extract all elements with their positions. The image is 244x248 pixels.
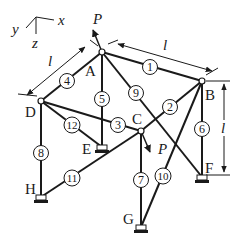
- member-label-11: 11: [64, 170, 80, 186]
- support-e: [95, 145, 109, 153]
- member-label-5: 5: [95, 92, 110, 107]
- x-axis-line: [36, 17, 54, 20]
- y-axis-line: [26, 17, 36, 28]
- svg-text:4: 4: [64, 74, 70, 88]
- member-label-12: 12: [64, 117, 80, 133]
- coordinate-axes: x y z: [10, 12, 65, 51]
- svg-text:10: 10: [158, 170, 170, 182]
- svg-text:2: 2: [167, 100, 173, 114]
- support-f: [195, 175, 209, 183]
- svg-text:1: 1: [147, 60, 153, 74]
- dim-ab-label: l: [163, 37, 167, 53]
- node-label-g: G: [123, 211, 134, 227]
- node-label-c: C: [132, 111, 142, 127]
- member-label-1: 1: [143, 60, 158, 75]
- node-label-a: A: [85, 63, 96, 79]
- load-label-a: P: [92, 11, 102, 27]
- y-axis-label: y: [10, 21, 19, 37]
- node-label-h: H: [25, 181, 36, 197]
- member-label-9: 9: [129, 86, 144, 101]
- member-label-4: 4: [60, 74, 75, 89]
- dim-ad-label: l: [48, 53, 52, 69]
- support-h: [34, 195, 48, 203]
- svg-text:3: 3: [115, 118, 121, 132]
- svg-text:12: 12: [67, 119, 78, 131]
- support-g: [134, 225, 148, 233]
- member-label-10: 10: [155, 168, 171, 184]
- svg-text:6: 6: [199, 122, 205, 136]
- member-label-8: 8: [34, 146, 49, 161]
- node-label-b: B: [205, 87, 215, 103]
- node-label-e: E: [82, 141, 91, 157]
- member-label-7: 7: [134, 173, 149, 188]
- node-label-d: D: [25, 104, 36, 120]
- member-labels: 1 2 3 4 5 6 7 8: [34, 60, 210, 188]
- loads: P P: [92, 11, 167, 157]
- joint-b: [199, 78, 205, 84]
- load-label-c: P: [157, 141, 167, 157]
- member-label-2: 2: [163, 100, 178, 115]
- member-label-3: 3: [111, 118, 126, 133]
- space-truss-diagram: x y z l l l P: [0, 0, 244, 248]
- joint-a: [99, 49, 105, 55]
- joint-c: [138, 128, 144, 134]
- node-label-f: F: [205, 160, 213, 176]
- joint-d: [38, 98, 44, 104]
- svg-text:5: 5: [99, 92, 105, 106]
- svg-text:7: 7: [138, 173, 144, 187]
- svg-text:11: 11: [67, 172, 78, 184]
- svg-text:9: 9: [133, 86, 139, 100]
- member-label-6: 6: [195, 122, 210, 137]
- dim-bf-label: l: [221, 120, 225, 136]
- x-axis-label: x: [57, 12, 65, 28]
- supports: [34, 145, 209, 233]
- dim-ab-ext-a: [108, 40, 118, 44]
- svg-text:8: 8: [38, 146, 44, 160]
- z-axis-label: z: [31, 35, 38, 51]
- dim-ab-ext-b: [206, 68, 218, 75]
- member-3: [41, 101, 141, 131]
